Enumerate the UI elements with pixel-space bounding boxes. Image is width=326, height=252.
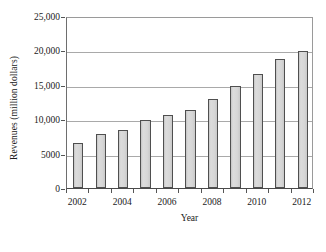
x-axis-tick-mark [313, 189, 314, 193]
bar [118, 130, 128, 188]
bar [185, 110, 195, 188]
y-axis-tick-label: 0 [12, 184, 60, 194]
x-axis-tick-label-group: 200220042006200820102012 [66, 196, 313, 210]
x-axis-tick-label: 2006 [147, 196, 187, 208]
x-axis-tick-mark [111, 189, 112, 193]
bar [96, 134, 106, 188]
bar [73, 143, 83, 188]
x-axis-title: Year [66, 213, 313, 223]
x-axis-tick-mark [223, 189, 224, 193]
bar-chart: Revenues (million dollars) 0500010,00015… [0, 0, 326, 252]
bar [163, 115, 173, 188]
x-axis-tick-mark [88, 189, 89, 193]
bars-group [67, 18, 312, 188]
y-axis-tick-mark [61, 17, 65, 18]
y-axis-tick-label: 20,000 [12, 46, 60, 56]
y-axis-tick-label-group: 0500010,00015,00020,00025,000 [12, 17, 60, 189]
y-axis-tick-mark [61, 189, 65, 190]
x-axis-tick-mark [156, 189, 157, 193]
y-axis-tick-mark [61, 155, 65, 156]
x-axis-tick-mark [268, 189, 269, 193]
y-axis-tick-label: 15,000 [12, 81, 60, 91]
x-axis-tick-mark [133, 189, 134, 193]
bar [298, 51, 308, 188]
x-axis-tick-marks [66, 189, 313, 195]
bar [208, 99, 218, 188]
x-axis-tick-label: 2008 [192, 196, 232, 208]
x-axis-tick-mark [201, 189, 202, 193]
x-axis-tick-mark [246, 189, 247, 193]
x-axis-tick-mark [66, 189, 67, 193]
y-axis-tick-mark [61, 86, 65, 87]
bar [253, 74, 263, 188]
plot-area [66, 17, 313, 189]
x-axis-tick-label: 2002 [57, 196, 97, 208]
bar [275, 59, 285, 188]
x-axis-tick-mark [291, 189, 292, 193]
y-axis-tick-label: 25,000 [12, 12, 60, 22]
y-axis-tick-label: 10,000 [12, 115, 60, 125]
y-axis-tick-label: 5000 [12, 150, 60, 160]
y-axis-tick-mark [61, 120, 65, 121]
x-axis-tick-mark [178, 189, 179, 193]
y-axis-tick-mark [61, 51, 65, 52]
x-axis-tick-label: 2012 [282, 196, 322, 208]
x-axis-tick-label: 2004 [102, 196, 142, 208]
x-axis-tick-label: 2010 [237, 196, 277, 208]
bar [140, 120, 150, 188]
bar [230, 86, 240, 189]
